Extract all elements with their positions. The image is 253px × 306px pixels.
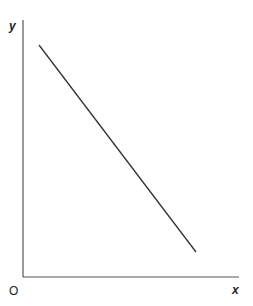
- y-axis-label: y: [8, 19, 17, 33]
- decreasing-line: [39, 45, 196, 252]
- x-axis-label: x: [231, 283, 240, 297]
- graph: y x O: [0, 0, 253, 306]
- origin-label: O: [9, 284, 18, 298]
